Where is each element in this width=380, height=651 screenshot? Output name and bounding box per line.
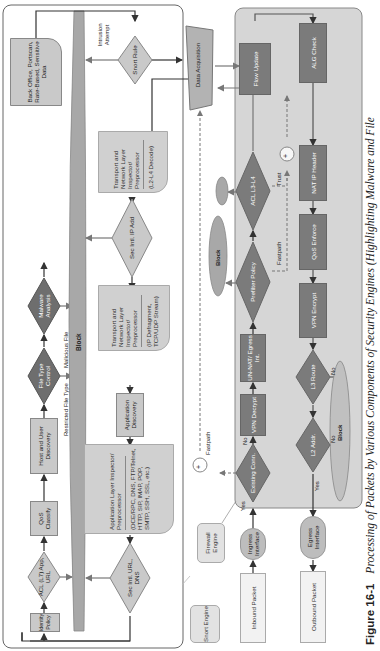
- yes-l2-label: Yes: [314, 481, 321, 491]
- app-layer-sub: (DCE/RPC, DNS, FTP/Telnet, HTTP, SIP, IM…: [129, 448, 150, 530]
- l2-addr-label: L2 Addr.: [309, 427, 316, 463]
- firewall-engine-legend: Firewall Engine: [197, 523, 225, 563]
- divider: [125, 456, 126, 530]
- egress-interface-label: Egress Interface: [306, 517, 320, 558]
- inbound-packet-label: Inbound Packet: [250, 587, 257, 630]
- sec-intl-ip-label: Sec Intl. IP Add: [128, 211, 135, 265]
- back-office-label: Back Office, Portscan, Rate-Based, Sensi…: [26, 39, 47, 105]
- merge-plus-icon: +: [195, 465, 202, 469]
- transport-l2l4-sub: (L2-L4 Decode): [147, 146, 154, 189]
- fastpath-prefilter-label: Fastpath: [276, 242, 283, 265]
- no-existing-label: No: [242, 437, 249, 445]
- block-bar-label: Block: [75, 333, 82, 351]
- app-discovery-label: Application Discovery: [123, 394, 137, 436]
- transport-l2l4-title: Transport and Network Layer Inspector/ P…: [112, 135, 140, 189]
- transport-defrag-node: Transport and Network Layer Inspector/ P…: [98, 285, 170, 351]
- figure-caption: Figure 16-1Processing of Packets by Vari…: [364, 117, 376, 645]
- un-nat-label: UN-NAT/ Egress Int.: [246, 335, 260, 381]
- outbound-packet-label: Outbound Packet: [310, 583, 317, 631]
- block-inner-label: Block: [337, 425, 344, 441]
- existing-conn-label: Existing Conn.: [249, 452, 256, 494]
- vpn-decrypt-node: VPN Decrypt: [240, 394, 266, 436]
- app-layer-title: Application Layer Inspector/ Preprocesso…: [108, 448, 122, 530]
- alg-check-label: ALG Check: [310, 37, 317, 69]
- acl-l7-label: ACL (L7) App, URL: [37, 553, 51, 601]
- nat-ip-header-label: NAT IP Header: [310, 152, 317, 193]
- trust-label: Trust: [276, 173, 283, 186]
- ingress-interface-label: Ingress Interface: [246, 529, 260, 559]
- data-acquisition-label: Data Acquisition: [194, 35, 201, 95]
- flow-update-label: Flow Update: [252, 52, 259, 87]
- snort-engine-legend-label: Snort Engine: [202, 606, 209, 642]
- caption-text: Processing of Packets by Various Compone…: [364, 117, 376, 574]
- snort-engine-legend: Snort Engine: [190, 605, 220, 643]
- app-discovery-node: Application Discovery: [116, 393, 144, 437]
- transport-defrag-title: Transport and Network Layer Inspector/ P…: [110, 289, 138, 347]
- sec-intl-url-label: Sec Intl. URL, DNS: [126, 552, 140, 604]
- file-type-control-label: File Type Control: [37, 353, 51, 399]
- fastpath-top-label: Fastpath: [205, 432, 212, 455]
- outbound-packet-node: Outbound Packet: [300, 571, 326, 643]
- un-nat-node: UN-NAT/ Egress Int.: [240, 334, 266, 382]
- diagram-canvas: Identity Policy ACL (L7) App, URL QoS Cl…: [0, 0, 380, 651]
- host-user-discovery-label: Host and User Discovery: [37, 419, 51, 473]
- figure-number: Figure 16-1: [364, 584, 376, 645]
- qos-classify-node: QoS Classify: [30, 501, 58, 536]
- nat-ip-header-node: NAT IP Header: [299, 145, 327, 201]
- merge-plus-icon: +: [282, 154, 289, 158]
- egress-interface-node: Egress Interface: [300, 516, 326, 559]
- divider: [143, 140, 144, 189]
- no-l2-label: No: [330, 435, 337, 443]
- back-office-node: Back Office, Portscan, Rate-Based, Sensi…: [10, 38, 62, 106]
- block-outer-label: Block: [215, 250, 222, 266]
- vpn-encrypt-label: VPN Encrypt: [310, 293, 317, 328]
- snort-rule-label: Snort Rule: [131, 41, 138, 79]
- inbound-packet-node: Inbound Packet: [240, 573, 266, 643]
- vpn-encrypt-node: VPN Encrypt: [299, 283, 327, 338]
- identity-policy-label: Identity Policy: [38, 614, 52, 632]
- alg-check-node: ALG Check: [299, 23, 327, 83]
- flow-update-node: Flow Update: [239, 43, 271, 95]
- restricted-file-type-label: Restricted File Type: [63, 383, 70, 436]
- qos-enforce-node: QoS Enforce: [299, 214, 327, 270]
- acl-l3-l4-label: ACL L3-L4: [249, 171, 256, 211]
- no-l3-label: No: [330, 367, 337, 375]
- app-layer-node: Application Layer Inspector/ Preprocesso…: [84, 444, 174, 534]
- transport-l2l4-node: Transport and Network Layer Inspector/ P…: [98, 131, 168, 193]
- prefilter-policy-label: Prefilter Policy: [249, 257, 256, 307]
- l3-route-label: L3 Route: [309, 359, 316, 395]
- transport-defrag-sub: (IP Defragment, TCP/UDP Stream): [145, 289, 159, 347]
- identity-policy-node: Identity Policy: [30, 613, 60, 632]
- malicious-file-label: Malicious File: [63, 332, 70, 368]
- vpn-decrypt-label: VPN Decrypt: [250, 397, 257, 433]
- host-user-discovery-node: Host and User Discovery: [30, 418, 58, 474]
- ingress-interface-node: Ingress Interface: [240, 528, 266, 560]
- qos-classify-label: QoS Classify: [37, 502, 51, 535]
- divider: [141, 295, 142, 347]
- intrusion-attempt-label: Intrusion Attempt: [97, 15, 111, 55]
- firewall-engine-legend-label: Firewall Engine: [204, 524, 218, 562]
- malware-analysis-label: Malware Analysis: [37, 283, 51, 329]
- yes-existing-label: Yes: [240, 501, 247, 511]
- qos-enforce-label: QoS Enforce: [310, 224, 317, 259]
